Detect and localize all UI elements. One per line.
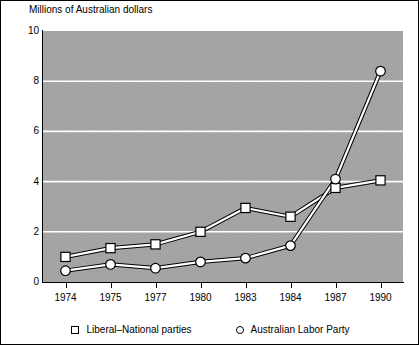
data-point-liberal-national-1984 (286, 212, 295, 221)
x-tick-label-1975: 1975 (91, 292, 131, 303)
x-axis-tick-group: 19741975197719801983198419871990 (43, 283, 403, 309)
plot-svg (43, 31, 403, 282)
data-point-australian-labor-1984 (286, 241, 296, 251)
legend-label: Liberal–National parties (86, 324, 191, 336)
y-tick-label-8: 8 (5, 76, 39, 86)
legend-square-marker-icon (71, 326, 79, 334)
chart-figure: Millions of Australian dollars 0246810 1… (0, 0, 419, 345)
x-tick-mark-1974 (66, 283, 67, 288)
data-point-australian-labor-1977 (151, 263, 161, 273)
x-tick-mark-1990 (381, 283, 382, 288)
data-point-liberal-national-1980 (196, 227, 205, 236)
data-point-liberal-national-1983 (241, 203, 250, 212)
data-point-liberal-national-1974 (61, 252, 70, 261)
data-point-australian-labor-1983 (241, 253, 251, 263)
y-tick-label-2: 2 (5, 227, 39, 237)
data-point-australian-labor-1987 (331, 174, 341, 184)
y-axis-tick-group: 0246810 (1, 1, 39, 345)
legend-entry-liberal-national[interactable]: Liberal–National parties (71, 324, 191, 336)
y-tick-label-10: 10 (5, 26, 39, 36)
x-tick-label-1990: 1990 (361, 292, 401, 303)
x-tick-mark-1987 (336, 283, 337, 288)
x-tick-label-1980: 1980 (181, 292, 221, 303)
data-point-australian-labor-1980 (196, 257, 206, 267)
x-tick-mark-1984 (291, 283, 292, 288)
data-point-liberal-national-1977 (151, 240, 160, 249)
legend-circle-marker-icon (236, 326, 244, 334)
series-marker-group (61, 66, 386, 275)
data-point-liberal-national-1975 (106, 244, 115, 253)
series-line-australian-labor (66, 71, 381, 271)
x-tick-label-1984: 1984 (271, 292, 311, 303)
plot-area (43, 31, 403, 282)
legend-label: Australian Labor Party (251, 324, 350, 336)
x-tick-label-1987: 1987 (316, 292, 356, 303)
data-point-australian-labor-1990 (376, 66, 386, 76)
x-tick-mark-1980 (201, 283, 202, 288)
data-point-australian-labor-1975 (106, 260, 116, 270)
y-tick-label-4: 4 (5, 177, 39, 187)
y-tick-label-6: 6 (5, 126, 39, 136)
x-tick-mark-1977 (156, 283, 157, 288)
chart-legend: Liberal–National partiesAustralian Labor… (1, 319, 419, 341)
data-point-liberal-national-1990 (376, 176, 385, 185)
chart-title: Millions of Australian dollars (29, 4, 152, 16)
legend-entry-australian-labor[interactable]: Australian Labor Party (236, 324, 350, 336)
x-tick-mark-1975 (111, 283, 112, 288)
series-line-outline-australian-labor (66, 71, 381, 271)
gridline-group (43, 81, 403, 232)
x-tick-mark-1983 (246, 283, 247, 288)
data-point-australian-labor-1974 (61, 266, 71, 276)
x-tick-label-1977: 1977 (136, 292, 176, 303)
x-tick-label-1983: 1983 (226, 292, 266, 303)
series-line-group (66, 71, 381, 271)
x-tick-label-1974: 1974 (46, 292, 86, 303)
data-point-liberal-national-1987 (331, 183, 340, 192)
y-tick-label-0: 0 (5, 277, 39, 287)
